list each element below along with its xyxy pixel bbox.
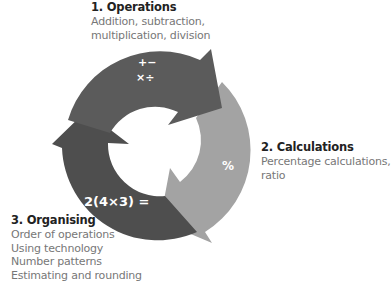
organising-desc-line: Estimating and rounding xyxy=(11,269,142,283)
operations-symbols-2: ×÷ xyxy=(136,71,154,84)
organising-description: Order of operations Using technology Num… xyxy=(11,228,142,282)
operations-symbols-1: +− xyxy=(138,56,156,69)
calculations-desc-line: Percentage calculations, xyxy=(261,155,391,169)
calculations-symbol: % xyxy=(222,159,234,173)
organising-desc-line: Using technology xyxy=(11,242,142,256)
organising-desc-line: Order of operations xyxy=(11,228,142,242)
operations-desc-line: Addition, subtraction, xyxy=(91,15,210,29)
calculations-desc-line: ratio xyxy=(261,169,391,183)
organising-title: 3. Organising xyxy=(11,213,96,227)
calculations-title: 2. Calculations xyxy=(261,140,354,154)
organising-desc-line: Number patterns xyxy=(11,255,142,269)
organising-symbol: 2(4×3) = xyxy=(84,194,149,209)
calculations-description: Percentage calculations, ratio xyxy=(261,155,391,182)
operations-title: 1. Operations xyxy=(91,0,176,14)
operations-description: Addition, subtraction, multiplication, d… xyxy=(91,15,210,42)
operations-desc-line: multiplication, division xyxy=(91,29,210,43)
